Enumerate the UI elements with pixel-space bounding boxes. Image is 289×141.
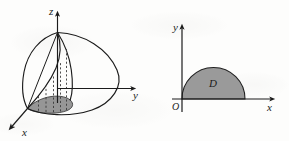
- left-figure-3d-solid: z y x: [0, 0, 150, 141]
- x-axis: x: [11, 109, 28, 139]
- origin-label: O: [172, 101, 179, 112]
- x-axis: x: [172, 99, 272, 113]
- z-axis-label: z: [48, 5, 54, 17]
- y-axis-label: y: [172, 21, 178, 33]
- x-axis-label: x: [21, 126, 27, 138]
- right-figure-region-d: y x O D: [150, 0, 289, 141]
- y-axis-label: y: [132, 89, 138, 101]
- region-d-label: D: [208, 77, 217, 89]
- x-axis-label: x: [266, 101, 272, 113]
- y-axis: y: [172, 21, 182, 112]
- figure-page: z y x y: [0, 0, 289, 141]
